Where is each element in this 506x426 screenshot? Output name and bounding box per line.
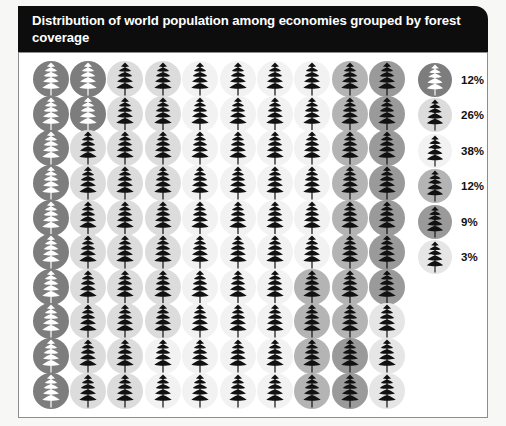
tree-icon (189, 62, 211, 96)
pictogram-cell (294, 200, 331, 235)
tree-icon (77, 166, 99, 200)
chart-legend: 12%26%38%12%9%3% (418, 62, 480, 275)
tree-icon (339, 166, 361, 200)
tree-icon (114, 62, 136, 96)
tree-icon (376, 62, 398, 96)
pictogram-cell (331, 235, 368, 270)
tree-icon (425, 206, 446, 238)
legend-item-12-dark[interactable]: 12% (418, 62, 480, 98)
tree-icon (189, 131, 211, 165)
pictogram-cell (32, 166, 69, 201)
legend-swatch (418, 205, 452, 239)
tree-icon (114, 304, 136, 338)
tree-icon (264, 97, 286, 131)
tree-icon (301, 62, 323, 96)
page-title: Distribution of world population among e… (32, 13, 474, 46)
tree-icon (264, 131, 286, 165)
pictogram-cell (32, 339, 69, 374)
pictogram-grid (32, 62, 406, 408)
pictogram-cell (369, 62, 406, 97)
pictogram-cell (369, 373, 406, 408)
tree-icon (152, 166, 174, 200)
tree-icon (189, 270, 211, 304)
tree-icon (376, 304, 398, 338)
pictogram-cell (144, 131, 181, 166)
pictogram-cell (331, 339, 368, 374)
tree-icon (301, 235, 323, 269)
legend-item-3[interactable]: 3% (418, 240, 480, 276)
pictogram-cell (369, 304, 406, 339)
tree-icon (40, 270, 62, 304)
legend-item-26[interactable]: 26% (418, 98, 480, 134)
pictogram-cell (107, 131, 144, 166)
tree-icon (264, 374, 286, 408)
pictogram-cell (294, 373, 331, 408)
pictogram-cell (144, 373, 181, 408)
pictogram-cell (294, 235, 331, 270)
tree-icon (425, 99, 446, 131)
legend-swatch (418, 240, 452, 274)
tree-icon (40, 97, 62, 131)
pictogram-cell (69, 270, 106, 305)
tree-icon (227, 166, 249, 200)
pictogram-cell (219, 166, 256, 201)
legend-swatch (418, 63, 452, 97)
tree-icon (264, 201, 286, 235)
pictogram-cell (331, 166, 368, 201)
tree-icon (339, 62, 361, 96)
tree-icon (339, 235, 361, 269)
tree-icon (152, 374, 174, 408)
tree-icon (114, 339, 136, 373)
tree-icon (301, 339, 323, 373)
tree-icon (264, 235, 286, 269)
tree-icon (152, 339, 174, 373)
tree-icon (339, 201, 361, 235)
pictogram-cell (69, 200, 106, 235)
pictogram-cell (144, 200, 181, 235)
tree-icon (227, 304, 249, 338)
infographic-figure: Distribution of world population among e… (0, 0, 506, 426)
tree-icon (40, 304, 62, 338)
pictogram-cell (331, 62, 368, 97)
pictogram-cell (144, 304, 181, 339)
pictogram-cell (219, 339, 256, 374)
pictogram-cell (69, 62, 106, 97)
tree-icon (425, 135, 446, 167)
pictogram-cell (219, 97, 256, 132)
tree-icon (264, 339, 286, 373)
legend-item-38[interactable]: 38% (418, 133, 480, 169)
legend-swatch (418, 134, 452, 168)
tree-icon (376, 235, 398, 269)
tree-icon (40, 166, 62, 200)
tree-icon (376, 97, 398, 131)
pictogram-cell (144, 339, 181, 374)
tree-icon (77, 270, 99, 304)
tree-icon (152, 270, 174, 304)
legend-item-9[interactable]: 9% (418, 204, 480, 240)
tree-icon (114, 166, 136, 200)
tree-icon (376, 166, 398, 200)
pictogram-cell (369, 235, 406, 270)
tree-icon (227, 62, 249, 96)
tree-icon (114, 131, 136, 165)
tree-icon (264, 304, 286, 338)
tree-icon (152, 97, 174, 131)
tree-icon (189, 235, 211, 269)
pictogram-cell (107, 304, 144, 339)
pictogram-cell (331, 373, 368, 408)
title-bar: Distribution of world population among e… (18, 6, 488, 52)
pictogram-cell (144, 270, 181, 305)
tree-icon (189, 97, 211, 131)
tree-icon (114, 235, 136, 269)
legend-item-12-medium[interactable]: 12% (418, 169, 480, 205)
tree-icon (114, 270, 136, 304)
pictogram-cell (369, 166, 406, 201)
tree-icon (339, 304, 361, 338)
pictogram-cell (107, 270, 144, 305)
tree-icon (227, 235, 249, 269)
pictogram-cell (32, 235, 69, 270)
tree-icon (114, 374, 136, 408)
tree-icon (227, 374, 249, 408)
tree-icon (227, 131, 249, 165)
tree-icon (264, 62, 286, 96)
